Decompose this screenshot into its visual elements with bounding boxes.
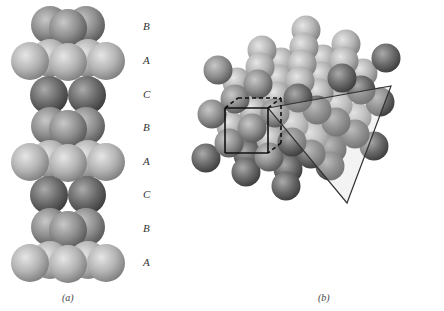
atom-sphere: [11, 244, 49, 282]
figure-canvas: [0, 0, 444, 311]
layer-label-b: B: [143, 121, 150, 133]
atom-sphere: [11, 143, 49, 181]
atom-sphere: [328, 64, 357, 93]
layer-label-b: B: [143, 222, 150, 234]
layer-label-a: A: [143, 54, 150, 66]
caption-a: (a): [62, 292, 74, 303]
atom-sphere: [244, 70, 273, 99]
layer-label-a: A: [143, 256, 150, 268]
atom-sphere: [204, 56, 233, 85]
layer-label-a: A: [143, 155, 150, 167]
atom-sphere: [372, 44, 401, 73]
atom-sphere: [87, 42, 125, 80]
atom-sphere: [49, 144, 87, 182]
atom-sphere: [11, 42, 49, 80]
layer-label-b: B: [143, 20, 150, 32]
layer-label-c: C: [143, 188, 150, 200]
atom-sphere: [87, 143, 125, 181]
caption-b: (b): [318, 292, 330, 303]
layer-label-c: C: [143, 88, 150, 100]
atom-sphere: [272, 172, 301, 201]
atom-sphere: [87, 244, 125, 282]
atom-sphere: [49, 245, 87, 283]
atom-sphere: [49, 43, 87, 81]
abc-stacking-sequence: [11, 6, 125, 283]
